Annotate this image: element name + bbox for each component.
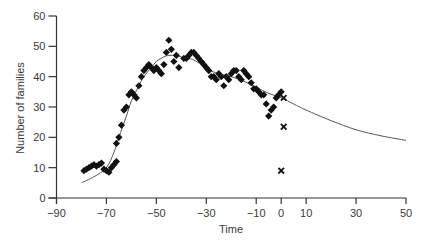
data-point-diamond	[220, 82, 227, 89]
observed-points	[80, 37, 284, 176]
x-tick-label: −30	[197, 207, 216, 219]
data-point-diamond	[175, 64, 182, 71]
y-tick-label: 10	[33, 162, 45, 174]
chart: 0102030405060 −90−70−50−30−100103050 Tim…	[0, 0, 430, 243]
x-tick-label: −70	[97, 207, 116, 219]
data-point-diamond	[160, 61, 167, 68]
x-tick-label: −90	[47, 207, 66, 219]
y-tick-label: 50	[33, 40, 45, 52]
x-axis: −90−70−50−30−100103050	[47, 198, 412, 219]
data-point-diamond	[165, 37, 172, 44]
data-point-cross	[281, 124, 287, 130]
data-point-cross	[278, 168, 284, 174]
x-tick-label: −10	[247, 207, 266, 219]
y-tick-label: 20	[33, 131, 45, 143]
y-tick-label: 40	[33, 71, 45, 83]
x-tick-label: 0	[278, 207, 284, 219]
y-tick-label: 30	[33, 101, 45, 113]
x-tick-label: 10	[300, 207, 312, 219]
y-axis-title: Number of families	[14, 62, 26, 154]
y-axis: 0102030405060	[33, 10, 56, 204]
x-tick-label: −50	[147, 207, 166, 219]
data-point-diamond	[263, 100, 270, 107]
x-tick-label: 30	[350, 207, 362, 219]
x-axis-title: Time	[219, 223, 243, 235]
cross-markers	[278, 95, 286, 173]
y-tick-label: 0	[39, 192, 45, 204]
x-tick-label: 50	[400, 207, 412, 219]
y-tick-label: 60	[33, 10, 45, 22]
data-point-diamond	[135, 82, 142, 89]
